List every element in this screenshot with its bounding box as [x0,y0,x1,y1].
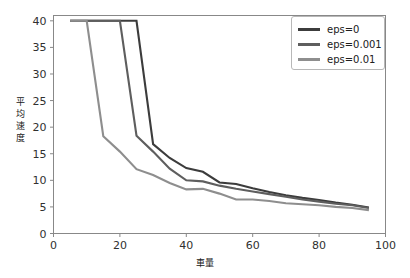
svg-text:20: 20 [113,239,127,252]
legend-label: eps=0.001 [327,40,382,50]
svg-text:0: 0 [40,228,47,241]
legend-label: eps=0.01 [327,55,375,65]
svg-text:10: 10 [33,174,47,187]
chart-figure: 0204060801000510152025303540 eps=0eps=0.… [0,0,410,278]
svg-text:15: 15 [33,148,47,161]
svg-text:100: 100 [375,239,396,252]
legend-swatch-icon [298,43,320,46]
legend-label: eps=0 [327,25,359,35]
y-axis-title: 平均速度 [13,96,27,144]
svg-text:30: 30 [33,68,47,81]
svg-text:0: 0 [50,239,57,252]
x-axis-title: 車量 [0,256,410,269]
svg-text:40: 40 [33,15,47,28]
svg-text:60: 60 [246,239,260,252]
svg-text:80: 80 [312,239,326,252]
svg-text:40: 40 [179,239,193,252]
svg-text:25: 25 [33,95,47,108]
legend-item-1: eps=0.001 [298,37,378,52]
legend-item-2: eps=0.01 [298,52,378,67]
legend-item-0: eps=0 [298,22,378,37]
y-axis-title-char-2: 速 [13,120,27,132]
chart-legend: eps=0eps=0.001eps=0.01 [291,16,385,70]
svg-text:5: 5 [40,201,47,214]
legend-swatch-icon [298,58,320,61]
legend-swatch-icon [298,28,320,31]
svg-text:20: 20 [33,121,47,134]
y-axis-title-char-1: 均 [13,108,27,120]
y-axis-title-char-0: 平 [13,96,27,108]
y-axis-title-char-3: 度 [13,132,27,144]
svg-text:35: 35 [33,41,47,54]
